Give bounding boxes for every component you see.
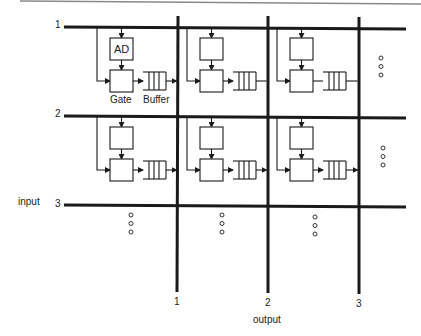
- buffer-queue: [233, 72, 256, 90]
- ad-block: [200, 38, 223, 60]
- input-axis-label: input: [18, 197, 40, 207]
- output-label-1: 1: [174, 297, 180, 307]
- continuation-dot: [220, 222, 224, 226]
- buffer-queue: [143, 72, 166, 90]
- buffer-queue: [143, 161, 166, 179]
- input-label-2: 2: [55, 109, 61, 119]
- input-line-3: [64, 205, 406, 207]
- gate-block: [290, 159, 313, 181]
- continuation-dot: [129, 213, 133, 217]
- gate-label: Gate: [110, 95, 132, 105]
- input-label-1: 1: [55, 20, 61, 30]
- crosspoint-cell-1-3: [277, 27, 358, 92]
- ad-block: [110, 127, 133, 149]
- continuation-dot: [313, 232, 317, 236]
- continuation-dot: [379, 65, 383, 69]
- continuation-dot: [381, 146, 385, 150]
- ad-block: [200, 127, 223, 149]
- continuation-dots: [129, 56, 385, 236]
- continuation-dot: [379, 56, 383, 60]
- continuation-dot: [220, 230, 224, 234]
- continuation-dot: [220, 213, 224, 217]
- crosspoint-cell-1-1: [97, 27, 177, 92]
- input-line-1: [64, 27, 406, 29]
- gate-block: [110, 70, 133, 92]
- continuation-dot: [313, 215, 317, 219]
- ad-block: [290, 127, 313, 149]
- crosspoint-cell-1-2: [187, 27, 267, 92]
- buffer-queue: [233, 161, 256, 179]
- gate-block: [200, 70, 223, 92]
- gate-block: [290, 70, 313, 92]
- crosspoint-cell-2-3: [277, 116, 358, 181]
- continuation-dot: [381, 155, 385, 159]
- input-line-2: [64, 116, 406, 118]
- gate-block: [200, 159, 223, 181]
- buffer-label: Buffer: [143, 95, 170, 105]
- output-axis-label: output: [253, 315, 281, 325]
- ad-label: AD: [114, 44, 129, 55]
- crosspoint-cell-2-1: [97, 116, 177, 181]
- output-label-2: 2: [265, 298, 271, 308]
- output-label-3: 3: [356, 299, 362, 309]
- output-line-1: [177, 16, 178, 292]
- ad-block: [290, 38, 313, 60]
- continuation-dot: [129, 222, 133, 226]
- crosspoint-cell-2-2: [187, 116, 267, 181]
- buffer-queue: [323, 161, 346, 179]
- gate-block: [110, 159, 133, 181]
- continuation-dot: [129, 230, 133, 234]
- crossbar-diagram: [0, 0, 421, 336]
- buffer-queue: [323, 72, 346, 90]
- continuation-dot: [313, 224, 317, 228]
- continuation-dot: [379, 73, 383, 77]
- input-label-3: 3: [55, 199, 61, 209]
- top-rule: [20, 1, 421, 4]
- crosspoint-cells: [97, 27, 358, 181]
- continuation-dot: [381, 163, 385, 167]
